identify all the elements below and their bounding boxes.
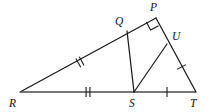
segments-group bbox=[20, 18, 196, 92]
geometry-diagram: R Q P U S T bbox=[0, 0, 211, 112]
segment-RP bbox=[20, 18, 156, 92]
vertex-label-P: P bbox=[149, 1, 157, 13]
vertex-label-T: T bbox=[190, 97, 198, 109]
vertex-labels-group: R Q P U S T bbox=[8, 1, 198, 109]
vertex-label-Q: Q bbox=[115, 15, 124, 27]
diagram-canvas: R Q P U S T bbox=[0, 0, 211, 112]
segment-SU bbox=[134, 44, 167, 92]
vertex-label-U: U bbox=[172, 30, 181, 42]
vertex-label-S: S bbox=[129, 97, 135, 109]
right-angle-P-icon bbox=[146, 22, 158, 30]
segment-QS bbox=[127, 31, 134, 92]
vertex-label-R: R bbox=[8, 97, 16, 109]
